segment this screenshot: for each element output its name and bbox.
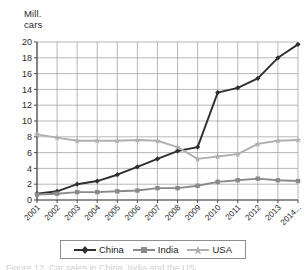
x-axis-tick-label: 2012: [244, 203, 264, 223]
chart-figure: Mill.cars 02468101214161820 200120022003…: [0, 0, 306, 270]
x-axis-tick-label: 2001: [23, 203, 43, 223]
data-point-marker: [135, 188, 139, 192]
line-chart-svg: 02468101214161820 2001200220032004200520…: [0, 0, 306, 270]
data-point-marker: [115, 189, 119, 193]
legend-marker-india-icon: [133, 245, 155, 255]
x-axis-tick-labels: 2001200220032004200520062007200820092010…: [23, 203, 303, 227]
data-point-marker: [215, 180, 219, 184]
data-point-marker: [276, 178, 280, 182]
x-axis-tick-label: 2014...: [279, 203, 303, 227]
y-axis-tick-label: 4: [27, 164, 32, 174]
y-axis-tick-label: 20: [22, 37, 32, 47]
data-point-marker: [55, 191, 59, 195]
y-axis-tick-label: 6: [27, 148, 32, 158]
data-point-marker: [175, 186, 179, 190]
legend-label-usa: USA: [212, 244, 232, 255]
y-axis-tick-label: 10: [22, 116, 32, 126]
legend-label-india: India: [158, 244, 179, 255]
x-axis-tick-label: 2008: [163, 203, 183, 223]
data-point-marker: [75, 190, 79, 194]
x-axis-tick-label: 2011: [224, 203, 243, 222]
y-axis-tick-label: 16: [22, 69, 32, 79]
x-axis-tick-label: 2005: [103, 203, 123, 223]
y-axis-tick-label: 14: [22, 85, 32, 95]
data-point-marker: [296, 179, 300, 183]
data-point-marker: [215, 90, 220, 95]
y-axis-tick-label: 2: [27, 179, 32, 189]
x-axis-tick-label: 2006: [123, 203, 143, 223]
series-usa: [34, 131, 301, 162]
page-caption-fragment: Figure 12. Car sales in China, India and…: [6, 263, 196, 270]
y-axis-tick-label: 8: [27, 132, 32, 142]
data-point-marker: [75, 182, 80, 187]
x-axis-tick-label: 2010: [203, 203, 223, 223]
legend-item-india[interactable]: India: [133, 244, 179, 255]
data-point-marker: [95, 190, 99, 194]
legend-marker-china-icon: [74, 245, 96, 255]
y-axis-tick-label: 12: [22, 100, 32, 110]
x-axis-tick-label: 2009: [183, 203, 203, 223]
legend-item-usa[interactable]: USA: [187, 244, 232, 255]
data-point-marker: [35, 192, 39, 196]
plot-area-wrapper: 02468101214161820 2001200220032004200520…: [0, 0, 306, 270]
gridlines: [37, 42, 298, 200]
x-axis-tick-label: 2004: [83, 203, 103, 223]
y-axis-tick-label: 18: [22, 53, 32, 63]
legend-label-china: China: [99, 244, 124, 255]
data-point-marker: [115, 172, 120, 177]
data-point-marker: [155, 186, 159, 190]
x-axis-tick-label: 2002: [43, 203, 63, 223]
series-china: [34, 42, 300, 197]
legend-item-china[interactable]: China: [74, 244, 124, 255]
data-point-marker: [195, 184, 199, 188]
data-series-group: [34, 42, 301, 197]
x-axis-tick-label: 2007: [143, 203, 163, 223]
series-india: [35, 176, 300, 196]
data-point-marker: [256, 176, 260, 180]
data-point-marker: [195, 144, 200, 149]
y-axis-tick-label: 0: [27, 195, 32, 205]
chart-legend: China India USA: [60, 240, 246, 259]
series-line: [37, 44, 298, 193]
y-axis-tick-labels: 02468101214161820: [22, 37, 32, 205]
legend-marker-usa-icon: [187, 245, 209, 255]
x-axis-tick-label: 2003: [63, 203, 83, 223]
data-point-marker: [155, 156, 160, 161]
data-point-marker: [95, 178, 100, 183]
data-point-marker: [236, 178, 240, 182]
